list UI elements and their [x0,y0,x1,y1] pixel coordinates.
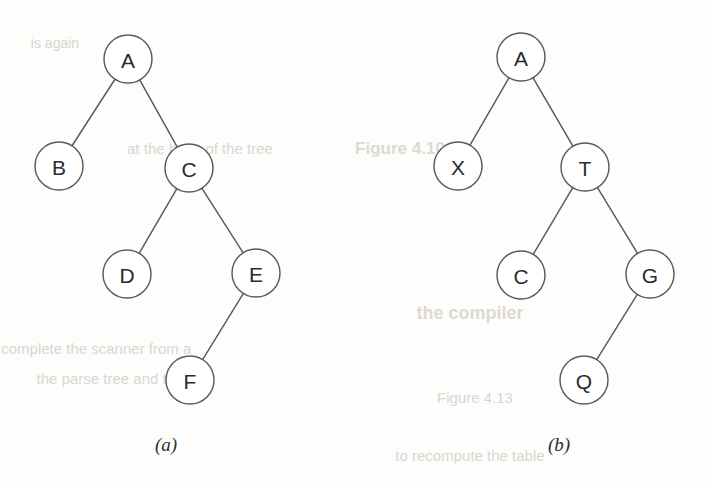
node-label-a-D: D [119,264,134,287]
binary-trees-figure: Figure 4.10at the base of the treethe co… [0,0,706,485]
bleed-through-text: Figure 4.13 [437,389,513,406]
tree-node-a-F[interactable]: F [166,356,214,404]
node-label-b-G: G [642,264,658,287]
node-label-b-T: T [579,157,592,180]
tree-node-b-X[interactable]: X [434,142,482,190]
tree-node-a-B[interactable]: B [35,142,83,190]
tree-node-a-D[interactable]: D [103,250,151,298]
tree-caption: (b) [548,434,570,456]
tree-caption: (a) [155,434,177,456]
node-label-b-C: C [513,265,528,288]
bleed-through-text: the parse tree and the [37,370,184,387]
tree-node-a-C[interactable]: C [165,144,213,192]
node-label-a-F: F [184,370,197,393]
node-label-a-C: C [181,158,196,181]
node-label-a-E: E [249,263,263,286]
node-label-b-A: A [514,47,528,70]
node-label-b-X: X [451,156,465,179]
tree-node-a-A[interactable]: A [104,35,152,83]
bleed-through-text: a complete the scanner from a [0,340,192,357]
figure-background [0,0,706,485]
figure-container: Figure 4.10at the base of the treethe co… [0,0,706,485]
tree-node-b-Q[interactable]: Q [560,356,608,404]
tree-node-a-E[interactable]: E [232,249,280,297]
tree-node-b-G[interactable]: G [626,250,674,298]
node-label-b-Q: Q [576,370,592,393]
tree-node-b-C[interactable]: C [497,251,545,299]
node-label-a-B: B [52,156,66,179]
bleed-through-text: the compiler [416,303,523,323]
bleed-through-text: is again [31,35,79,51]
bleed-through-text: Figure 4.10 [355,139,445,158]
tree-node-b-T[interactable]: T [561,143,609,191]
tree-node-b-A[interactable]: A [497,33,545,81]
node-label-a-A: A [121,49,135,72]
bleed-through-text: to recompute the table [395,447,544,464]
